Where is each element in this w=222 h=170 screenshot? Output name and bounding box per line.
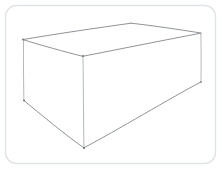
vertex-top-back-left xyxy=(22,39,24,41)
cuboid-line-drawing xyxy=(0,0,222,170)
drawing-frame xyxy=(0,0,222,170)
rounded-frame xyxy=(6,6,216,164)
vertex-top-front-center xyxy=(82,55,84,57)
sketch-canvas xyxy=(0,0,222,170)
vertex-bottom-front-center xyxy=(83,147,85,149)
vertex-bottom-back-right xyxy=(200,81,202,83)
vertex-bottom-front-left xyxy=(23,100,25,102)
